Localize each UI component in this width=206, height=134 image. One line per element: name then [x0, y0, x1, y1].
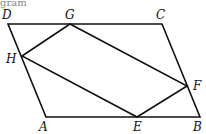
label-c: C — [156, 8, 165, 22]
label-h: H — [5, 52, 17, 66]
label-g: G — [65, 8, 75, 22]
label-e: E — [132, 120, 142, 134]
label-a: A — [38, 120, 48, 134]
quadrilateral-efgh — [22, 24, 187, 117]
parallelogram-abcd — [8, 24, 200, 117]
label-d: D — [1, 8, 12, 22]
label-f: F — [192, 79, 202, 93]
label-b: B — [192, 120, 202, 134]
caption-fragment: gram — [0, 0, 27, 8]
geometry-diagram: gram D G C H F A E B — [0, 0, 206, 134]
